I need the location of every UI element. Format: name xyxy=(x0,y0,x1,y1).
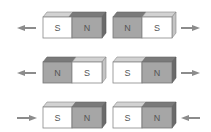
arrow-left-icon xyxy=(17,70,36,76)
pole-label: S xyxy=(54,23,60,33)
arrow-left-icon xyxy=(17,25,36,31)
pole-label: N xyxy=(84,23,91,33)
magnet: S N xyxy=(113,102,176,128)
arrow-right-icon xyxy=(181,25,200,31)
arrow-right-icon xyxy=(181,70,200,76)
pole-label: S xyxy=(84,68,90,78)
pole-label: N xyxy=(154,113,161,123)
magnet: N S xyxy=(43,57,106,83)
magnets-diagram: S N N S N S xyxy=(0,0,211,132)
pole-label: S xyxy=(54,113,60,123)
arrow-right-icon xyxy=(17,115,37,121)
pole-label: N xyxy=(54,68,61,78)
pole-label: S xyxy=(124,113,130,123)
pole-label: N xyxy=(124,23,131,33)
pole-label: N xyxy=(84,113,91,123)
pole-label: S xyxy=(124,68,130,78)
magnet-row-3: S N S N xyxy=(17,102,200,128)
pole-label: S xyxy=(154,23,160,33)
magnet-row-2: N S S N xyxy=(17,57,200,83)
magnet: S N xyxy=(113,57,176,83)
arrow-left-icon xyxy=(181,115,200,121)
magnet: N S xyxy=(113,12,176,38)
magnet: S N xyxy=(43,102,106,128)
magnet-row-1: S N N S xyxy=(17,12,200,38)
pole-label: N xyxy=(154,68,161,78)
magnet: S N xyxy=(43,12,106,38)
